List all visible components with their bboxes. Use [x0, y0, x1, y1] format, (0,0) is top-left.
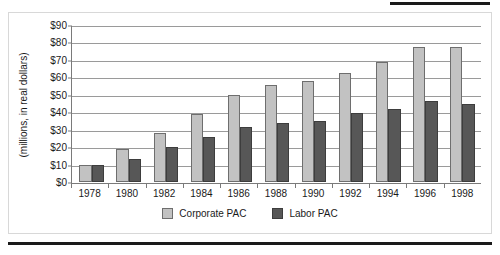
x-tick-group: 1994 [369, 184, 406, 204]
plot-area: $90$80$70$60$50$40$30$20$10$0 [71, 26, 481, 184]
bar-labor-1986 [240, 127, 252, 182]
bar-corporate-1996 [413, 47, 425, 182]
x-tick-label: 1986 [220, 188, 257, 200]
y-tick-mark [68, 60, 72, 61]
bar-labor-1994 [388, 109, 400, 182]
y-tick-label: $30 [50, 126, 67, 136]
chart-legend: Corporate PACLabor PAC [9, 208, 491, 219]
x-axis-ticks: 1978198019821984198619881990199219941996… [71, 184, 481, 204]
y-axis-title: (millions, in real dollars) [17, 26, 31, 184]
y-tick-label: $50 [50, 91, 67, 101]
x-tick-label: 1996 [406, 188, 443, 200]
bar-group [110, 26, 147, 182]
x-tick-label: 1984 [183, 188, 220, 200]
bar-corporate-1980 [116, 149, 128, 182]
labor-swatch [272, 208, 283, 219]
bar-group [73, 26, 110, 182]
bar-corporate-1986 [228, 95, 240, 182]
bar-labor-1998 [462, 104, 474, 182]
bar-group [444, 26, 481, 182]
x-tick-group: 1992 [332, 184, 369, 204]
legend-label: Labor PAC [289, 209, 337, 219]
bar-labor-1982 [166, 147, 178, 182]
bar-labor-1980 [129, 159, 141, 182]
x-tick-label: 1982 [146, 188, 183, 200]
corporate-swatch [162, 208, 173, 219]
y-tick-mark [68, 95, 72, 96]
bar-corporate-1984 [191, 114, 203, 182]
x-tick-group: 1998 [444, 184, 481, 204]
bar-labor-1978 [92, 165, 104, 182]
x-tick-label: 1990 [295, 188, 332, 200]
bar-corporate-1978 [79, 165, 91, 182]
x-tick-group: 1988 [257, 184, 294, 204]
x-tick-label: 1980 [108, 188, 145, 200]
x-tick-label: 1978 [71, 188, 108, 200]
x-tick-mark [71, 184, 72, 188]
x-tick-group: 1996 [406, 184, 443, 204]
y-tick-label: $20 [50, 143, 67, 153]
bar-group [147, 26, 184, 182]
bar-labor-1992 [351, 113, 363, 182]
legend-item: Labor PAC [272, 208, 337, 219]
y-tick-label: $70 [50, 56, 67, 66]
x-tick-group: 1982 [146, 184, 183, 204]
x-tick-group: 1986 [220, 184, 257, 204]
legend-item: Corporate PAC [162, 208, 246, 219]
x-tick-group: 1978 [71, 184, 108, 204]
bar-group [258, 26, 295, 182]
y-tick-label: $90 [50, 21, 67, 31]
bar-labor-1996 [425, 101, 437, 182]
y-tick-mark [68, 26, 72, 27]
x-tick-label: 1992 [332, 188, 369, 200]
bar-labor-1984 [203, 137, 215, 182]
x-tick-group: 1990 [295, 184, 332, 204]
chart-panel: (millions, in real dollars) $90$80$70$60… [8, 12, 492, 234]
y-tick-label: $0 [56, 178, 67, 188]
bar-labor-1988 [277, 123, 289, 182]
bar-labor-1990 [314, 121, 326, 182]
bar-group [370, 26, 407, 182]
y-tick-mark [68, 78, 72, 79]
y-tick-label: $80 [50, 38, 67, 48]
y-tick-mark [68, 43, 72, 44]
x-tick-label: 1988 [257, 188, 294, 200]
bar-corporate-1990 [302, 81, 314, 182]
bar-corporate-1992 [339, 73, 351, 182]
bar-group [184, 26, 221, 182]
bottom-decorative-rule [8, 242, 492, 245]
legend-label: Corporate PAC [179, 209, 246, 219]
bar-group [407, 26, 444, 182]
bar-group [333, 26, 370, 182]
x-tick-label: 1998 [444, 188, 481, 200]
y-tick-mark [68, 130, 72, 131]
bar-group [296, 26, 333, 182]
top-decorative-rule [390, 2, 490, 5]
y-tick-mark [68, 165, 72, 166]
y-tick-label: $10 [50, 161, 67, 171]
bar-group [221, 26, 258, 182]
x-tick-label: 1994 [369, 188, 406, 200]
bar-corporate-1998 [450, 47, 462, 182]
x-tick-group: 1984 [183, 184, 220, 204]
y-tick-label: $60 [50, 73, 67, 83]
bar-groups [73, 26, 481, 182]
bar-corporate-1982 [154, 133, 166, 182]
bar-corporate-1994 [376, 62, 388, 182]
bar-corporate-1988 [265, 85, 277, 182]
y-tick-mark [68, 113, 72, 114]
y-tick-label: $40 [50, 108, 67, 118]
y-tick-mark [68, 148, 72, 149]
x-tick-group: 1980 [108, 184, 145, 204]
